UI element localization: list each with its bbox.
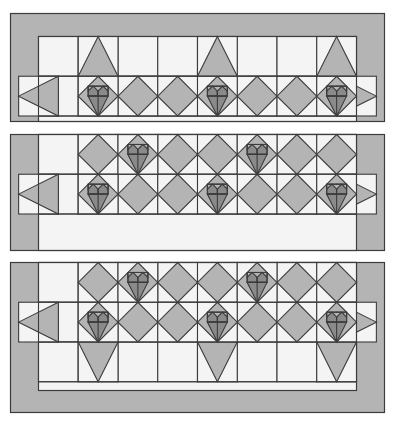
- setting-block-hourglass: [78, 263, 118, 303]
- plain-light-block: [39, 37, 79, 77]
- plain-light-block: [39, 342, 79, 382]
- setting-block-hourglass: [277, 302, 317, 342]
- setting-block-hourglass: [237, 174, 277, 214]
- plain-light-block: [237, 37, 277, 77]
- setting-block-hourglass: [118, 174, 158, 214]
- plain-light-block: [118, 342, 158, 382]
- trough-block: [198, 342, 238, 382]
- heart-block: [78, 302, 118, 342]
- plain-light-block: [277, 37, 317, 77]
- panel-interior: [19, 263, 377, 391]
- heart-block: [237, 263, 277, 303]
- heart-block: [118, 263, 158, 303]
- peak-block: [317, 37, 357, 77]
- setting-block-hourglass: [158, 263, 198, 303]
- heart-block: [237, 135, 277, 175]
- setting-block-hourglass: [198, 263, 238, 303]
- quilt-root: [11, 14, 385, 413]
- heart-block: [317, 76, 357, 116]
- setting-block-hourglass: [158, 302, 198, 342]
- peak-block: [78, 37, 118, 77]
- panel-interior: [19, 37, 377, 122]
- heart-block: [118, 135, 158, 175]
- plain-light-block: [39, 263, 79, 303]
- setting-block-hourglass: [277, 174, 317, 214]
- trough-block: [317, 342, 357, 382]
- setting-block-hourglass: [198, 135, 238, 175]
- heart-block: [198, 302, 238, 342]
- setting-block-hourglass: [277, 76, 317, 116]
- setting-block-hourglass: [118, 76, 158, 116]
- setting-block-hourglass: [317, 135, 357, 175]
- heart-block: [78, 174, 118, 214]
- setting-block-hourglass: [158, 135, 198, 175]
- quilt-panel-panel-middle: [11, 135, 385, 251]
- quilt-diagram-stage: Heart Quilt Block Layout Diagram: [0, 0, 398, 426]
- heart-block: [317, 302, 357, 342]
- heart-block: [198, 174, 238, 214]
- heart-block: [78, 76, 118, 116]
- setting-block-hourglass: [78, 135, 118, 175]
- setting-block-hourglass: [158, 76, 198, 116]
- quilt-panel-panel-top: [11, 14, 385, 122]
- heart-block: [317, 174, 357, 214]
- setting-block-hourglass: [237, 76, 277, 116]
- plain-light-block: [158, 37, 198, 77]
- plain-light-block: [158, 342, 198, 382]
- plain-light-block: [39, 135, 79, 175]
- trough-block: [78, 342, 118, 382]
- panel-interior: [19, 135, 377, 251]
- plain-light-block: [118, 37, 158, 77]
- heart-block: [198, 76, 238, 116]
- quilt-diagram-svg: Heart Quilt Block Layout Diagram: [0, 0, 398, 426]
- peak-block: [198, 37, 238, 77]
- quilt-panel-panel-bottom: [11, 263, 385, 413]
- plain-light-block: [237, 342, 277, 382]
- plain-light-block: [277, 342, 317, 382]
- setting-block-hourglass: [237, 302, 277, 342]
- setting-block-hourglass: [277, 263, 317, 303]
- setting-block-hourglass: [158, 174, 198, 214]
- setting-block-hourglass: [317, 263, 357, 303]
- setting-block-hourglass: [118, 302, 158, 342]
- setting-block-hourglass: [277, 135, 317, 175]
